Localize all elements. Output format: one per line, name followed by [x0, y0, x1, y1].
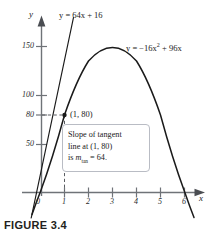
figure-caption: FIGURE 3.4: [4, 219, 67, 231]
y-tick-label-50: 50: [14, 140, 34, 148]
x-tick-label-0: 0: [36, 198, 40, 206]
y-tick-label-80: 80: [14, 111, 34, 119]
tangent-line-equation-label: y = 64x + 16: [59, 11, 103, 20]
parabola-equation-head: y = −16x: [126, 43, 157, 53]
x-tick-label-3: 3: [110, 198, 114, 206]
figure-container: y x 150 100 80 50 0 1 2 3 4 5 6 y = 64x …: [0, 0, 217, 241]
y-axis-label: y: [29, 10, 33, 19]
x-tick-label-6: 6: [182, 198, 186, 206]
callout-line-3: is mtan = 64.: [68, 152, 144, 164]
x-axis: [22, 189, 205, 196]
callout-line-1: Slope of tangent: [68, 129, 144, 141]
tangent-point-marker: [62, 113, 66, 117]
callout-line-3-prefix: is: [68, 153, 76, 162]
x-axis-label: x: [199, 194, 203, 203]
callout-line-3-tail: = 64.: [88, 153, 107, 162]
slope-callout-box: Slope of tangent line at (1, 80) is mtan…: [62, 124, 150, 172]
tangent-line-equation-text: y = 64x + 16: [59, 10, 103, 20]
x-tick-label-2: 2: [86, 198, 90, 206]
x-tick-label-4: 4: [134, 198, 138, 206]
tangent-point-label: (1, 80): [70, 110, 93, 119]
callout-line-2: line at (1, 80): [68, 141, 144, 153]
parabola-equation-tail: + 96x: [160, 43, 182, 53]
x-tick-label-1: 1: [62, 198, 66, 206]
y-tick-label-150: 150: [14, 42, 34, 50]
y-tick-label-100: 100: [14, 91, 34, 99]
parabola-equation-label: y = −16x2 + 96x: [126, 44, 182, 53]
x-tick-label-5: 5: [158, 198, 162, 206]
tangent-line: [31, 18, 73, 219]
